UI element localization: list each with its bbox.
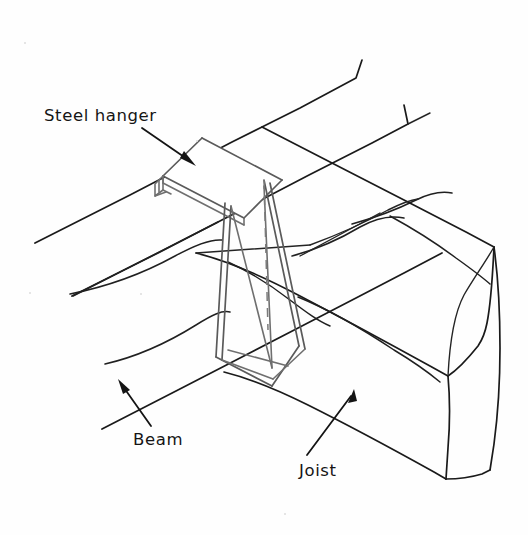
beam-bottom-front-edge bbox=[102, 253, 442, 429]
label-steel-hanger: Steel hanger bbox=[44, 106, 157, 125]
joist-arrowhead bbox=[348, 389, 357, 403]
technical-diagram-figure: Steel hanger Beam Joist bbox=[0, 0, 528, 535]
joist-end-bottom-edge bbox=[446, 470, 490, 479]
scan-speck bbox=[140, 293, 142, 295]
hanger-saddle-seat-line bbox=[228, 350, 288, 366]
joist-top-back-edge bbox=[262, 127, 494, 247]
beam-arrowhead bbox=[118, 379, 130, 394]
joist-grain-line-1 bbox=[298, 297, 440, 382]
label-beam: Beam bbox=[133, 430, 183, 449]
joist-end-corner-edge bbox=[446, 376, 450, 479]
scan-speck bbox=[284, 513, 286, 515]
joist-top-face-wedge-3 bbox=[196, 245, 310, 253]
scan-speck bbox=[196, 140, 198, 142]
joist-grain-line-2 bbox=[228, 262, 330, 326]
beam-upper-right-extension bbox=[408, 113, 430, 124]
hanger-saddle-inner-left bbox=[222, 360, 273, 379]
beam-grain-wedge-left bbox=[73, 222, 218, 296]
joist-top-face-wedge-2 bbox=[300, 213, 380, 256]
hanger-strap-right-inner bbox=[270, 183, 305, 349]
scan-speck bbox=[29, 292, 31, 294]
beam-grain-line-2 bbox=[105, 312, 230, 364]
isometric-drawing-canvas bbox=[0, 0, 528, 535]
joist-end-top-edge bbox=[448, 247, 494, 376]
scan-speck bbox=[24, 42, 26, 44]
steel-hanger-part bbox=[155, 138, 305, 386]
joist-top-front-edge bbox=[196, 253, 448, 376]
beam-grain-line-3 bbox=[292, 217, 404, 256]
joist-leader-line bbox=[307, 396, 351, 455]
label-joist: Joist bbox=[299, 461, 337, 480]
joist-end-top-crease bbox=[448, 247, 494, 376]
joist-grain-line-3 bbox=[390, 216, 490, 284]
scan-speck bbox=[146, 113, 148, 115]
